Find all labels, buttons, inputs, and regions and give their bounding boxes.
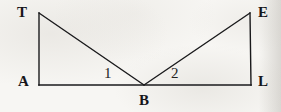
angle-label-1: 1	[104, 66, 112, 81]
geometry-figure: T E A L B 1 2	[0, 0, 281, 112]
angle-label-2: 2	[171, 66, 179, 81]
vertex-label-T: T	[17, 5, 27, 20]
segment-BE	[144, 13, 250, 85]
segment-TB	[39, 13, 144, 85]
vertex-label-B: B	[139, 93, 149, 108]
segment-LE	[250, 13, 251, 85]
vertex-label-E: E	[258, 5, 268, 20]
vertex-label-L: L	[258, 74, 268, 89]
vertex-label-A: A	[18, 74, 29, 89]
